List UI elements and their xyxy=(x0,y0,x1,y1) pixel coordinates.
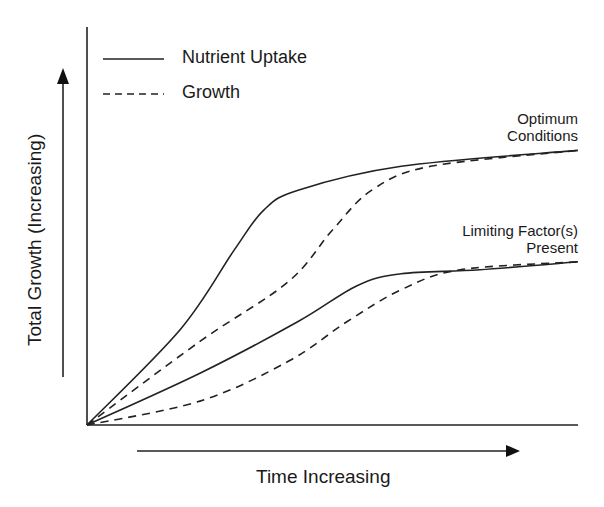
series-layer xyxy=(87,150,578,425)
x-direction-arrowhead-icon xyxy=(506,445,520,457)
series-line-nutrient-uptake-limiting-factor-s-present xyxy=(87,262,578,425)
legend-label-nutrient-uptake: Nutrient Uptake xyxy=(182,47,307,68)
y-direction-arrowhead-icon xyxy=(57,68,69,84)
annotation-optimum-conditions: Optimum Conditions xyxy=(507,110,578,144)
annotation-optimum-line2: Conditions xyxy=(507,127,578,144)
annotation-limiting-factors: Limiting Factor(s) Present xyxy=(462,222,578,256)
series-line-growth-optimum-conditions xyxy=(87,150,578,425)
x-axis-label: Time Increasing xyxy=(256,466,390,488)
annotation-limiting-line2: Present xyxy=(462,239,578,256)
series-line-nutrient-uptake-optimum-conditions xyxy=(87,150,578,425)
series-line-growth-limiting-factor-s-present xyxy=(87,262,578,425)
legend-label-growth: Growth xyxy=(182,82,240,103)
y-axis-label: Total Growth (Increasing) xyxy=(24,134,46,346)
annotation-optimum-line1: Optimum xyxy=(507,110,578,127)
annotation-limiting-line1: Limiting Factor(s) xyxy=(462,222,578,239)
